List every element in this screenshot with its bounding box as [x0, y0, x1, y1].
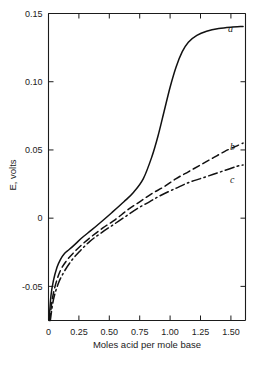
y-tick-label: 0.05 — [25, 145, 43, 155]
x-tick-label: 0 — [46, 327, 51, 337]
x-tick-label: 0.75 — [131, 327, 149, 337]
chart-plot-area: 00.250.500.751.001.251.50 0.150.100.050-… — [0, 0, 263, 365]
curve-label-a: a — [228, 23, 233, 34]
y-tick-label: 0 — [37, 213, 42, 223]
y-tick-label: -0.05 — [22, 282, 43, 292]
y-tick-label: 0.15 — [25, 9, 43, 19]
x-tick-label: 1.25 — [192, 327, 210, 337]
axis-tick-marks — [49, 14, 246, 321]
chart-figure: 00.250.500.751.001.251.50 0.150.100.050-… — [0, 0, 263, 365]
curve-label-b: b — [230, 141, 235, 152]
x-axis-title: Moles acid per mole base — [93, 339, 201, 350]
axis-frame — [49, 14, 246, 321]
curve-c — [50, 165, 243, 321]
y-tick-label: 0.10 — [25, 77, 43, 87]
x-tick-label: 1.50 — [222, 327, 240, 337]
x-axis-tick-labels: 00.250.500.751.001.251.50 — [46, 327, 240, 337]
curve-label-c: c — [230, 174, 235, 185]
x-tick-label: 0.50 — [101, 327, 119, 337]
y-axis-tick-labels: 0.150.100.050-0.05 — [22, 9, 43, 292]
data-curves — [49, 26, 243, 320]
x-tick-label: 0.25 — [70, 327, 88, 337]
y-axis-title: E, volts — [7, 159, 18, 190]
x-tick-label: 1.00 — [161, 327, 179, 337]
